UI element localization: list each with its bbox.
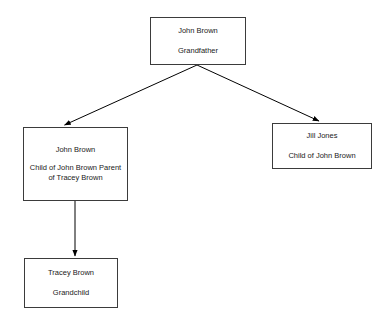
edge-grandfather-to-parent [65, 65, 198, 125]
family-tree-diagram: John Brown Grandfather John Brown Child … [0, 0, 389, 324]
node-aunt-name: Jill Jones [307, 131, 338, 141]
node-grandfather: John Brown Grandfather [150, 17, 246, 65]
node-parent-name: John Brown [56, 145, 96, 155]
node-grandfather-name: John Brown [178, 26, 218, 36]
node-grandchild-name: Tracey Brown [48, 268, 94, 278]
edge-grandfather-to-aunt [197, 65, 319, 121]
node-grandfather-role: Grandfather [175, 46, 221, 56]
node-parent-role: Child of John Brown Parent of Tracey Bro… [24, 163, 127, 183]
node-grandchild-role: Grandchild [50, 288, 92, 298]
node-aunt-role: Child of John Brown [285, 151, 358, 161]
node-parent: John Brown Child of John Brown Parent of… [23, 127, 128, 201]
node-grandchild: Tracey Brown Grandchild [24, 258, 118, 308]
node-aunt: Jill Jones Child of John Brown [272, 123, 372, 169]
